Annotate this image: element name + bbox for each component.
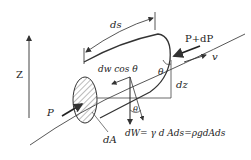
dA-label: dA	[103, 134, 117, 145]
p-plus-dp-label: P+dP	[185, 33, 214, 44]
velocity-arrow: v	[184, 51, 218, 62]
velocity-label: v	[212, 51, 218, 62]
cross-section-dA	[73, 77, 97, 123]
weight-vector: θ	[130, 77, 143, 124]
z-axis-label: Z	[16, 69, 23, 80]
weight-component-arrow: dw cos θ	[98, 64, 138, 84]
dA-leader: dA	[92, 112, 117, 145]
dz-label: dz	[176, 79, 188, 90]
theta-bottom-label: θ	[133, 105, 138, 114]
weight-equation: dW= γ d Ads=ρgdAds	[125, 128, 226, 138]
streamtube-diagram: Z ds P P+dP v dw cos θ dz	[0, 0, 251, 160]
theta-top-label: θ	[158, 67, 164, 77]
ds-label: ds	[110, 19, 122, 30]
p-label: P	[46, 107, 54, 118]
dw-cos-label: dw cos θ	[98, 64, 138, 74]
z-axis: Z	[16, 36, 29, 118]
